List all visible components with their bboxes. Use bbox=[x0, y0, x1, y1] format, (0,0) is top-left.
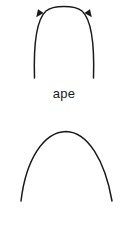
human-panel: human bbox=[0, 117, 128, 234]
ape-arch-curve bbox=[34, 7, 93, 79]
ape-label: ape bbox=[0, 86, 128, 101]
human-arch-diagram bbox=[0, 117, 128, 221]
ape-panel: ape bbox=[0, 0, 128, 117]
human-arch-curve bbox=[21, 132, 112, 202]
dental-arch-figure: ape human bbox=[0, 0, 128, 234]
